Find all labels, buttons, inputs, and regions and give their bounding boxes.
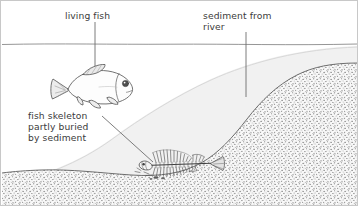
- label-fish-skeleton-partly-buried: fish skeleton partly buried by sediment: [28, 110, 89, 143]
- label-living-fish: living fish: [65, 10, 110, 21]
- diagram-figure: living fish sediment from river fish ske…: [0, 0, 358, 206]
- label-sediment-from-river: sediment from river: [203, 10, 271, 32]
- fish-eye: [122, 80, 128, 86]
- scene-illustration: [1, 1, 358, 206]
